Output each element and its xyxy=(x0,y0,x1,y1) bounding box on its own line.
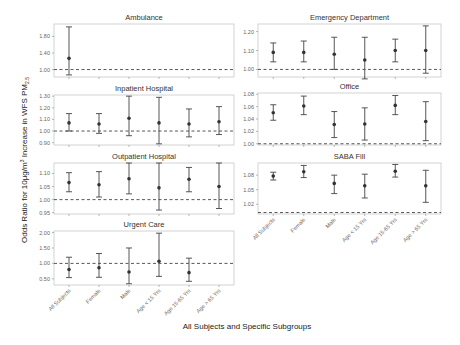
x-category-label: Female xyxy=(289,216,306,233)
point-estimate xyxy=(271,51,275,55)
point-estimate xyxy=(157,186,161,190)
y-tick-label: 1.02 xyxy=(243,201,254,207)
point-estimate xyxy=(187,122,191,126)
y-axis-title: Odds Ratio for 10μg/m3 Increase in WFS P… xyxy=(19,77,30,243)
point-estimate xyxy=(393,49,397,53)
y-tick-label: 1.00 xyxy=(243,141,254,147)
y-tick-label: 2.00 xyxy=(39,230,50,236)
y-tick-label: 1.08 xyxy=(243,91,254,97)
panel-saba-fill: SABA Fill1.021.051.08All SubjectsFemaleM… xyxy=(243,152,441,246)
y-tick-label: 1.05 xyxy=(39,184,50,190)
panel-frame xyxy=(258,163,441,214)
point-estimate xyxy=(424,120,428,124)
panel-urgent-care: Urgent Care0.501.001.502.00All SubjectsF… xyxy=(39,220,234,317)
x-category-label: Age > 65 Yrs xyxy=(402,216,429,243)
y-tick-label: 1.10 xyxy=(243,48,254,54)
panel-title: Outpatient Hospital xyxy=(112,152,176,161)
panel-frame xyxy=(54,231,234,285)
faceted-forest-plot: Ambulance1.001.401.80Emergency Departmen… xyxy=(0,0,460,345)
point-estimate xyxy=(332,123,336,127)
point-estimate xyxy=(363,184,367,188)
panel-outpatient-hospital: Outpatient Hospital0.951.001.051.10 xyxy=(39,152,234,216)
panel-inpatient-hospital: Inpatient Hospital0.901.001.101.201.30 xyxy=(39,84,234,147)
y-tick-label: 1.02 xyxy=(243,128,254,134)
point-estimate xyxy=(97,183,101,187)
x-category-label: All Subjects xyxy=(251,216,276,241)
point-estimate xyxy=(187,271,191,275)
point-estimate xyxy=(97,266,101,270)
x-axis-title: All Subjects and Specific Subgroups xyxy=(183,322,312,331)
x-category-label: Age 15-65 Yrs xyxy=(163,287,192,316)
y-tick-label: 1.20 xyxy=(39,105,50,111)
point-estimate xyxy=(67,121,71,125)
y-tick-label: 1.40 xyxy=(39,50,50,56)
panel-emergency-department: Emergency Department1.001.101.20 xyxy=(243,13,441,79)
panel-title: Inpatient Hospital xyxy=(115,84,173,93)
panel-title: Emergency Department xyxy=(310,13,390,22)
y-tick-label: 0.50 xyxy=(39,276,50,282)
panel-title: SABA Fill xyxy=(334,152,366,161)
x-category-label: Age < 15 Yrs xyxy=(341,216,368,243)
point-estimate xyxy=(127,116,131,120)
point-estimate xyxy=(424,49,428,53)
panel-title: Office xyxy=(340,82,359,91)
y-tick-label: 1.10 xyxy=(39,170,50,176)
point-estimate xyxy=(97,122,101,126)
x-category-label: Age > 65 Yrs xyxy=(195,287,222,314)
point-estimate xyxy=(302,104,306,108)
point-estimate xyxy=(127,270,131,274)
point-estimate xyxy=(67,57,71,61)
point-estimate xyxy=(271,111,275,115)
panels-group: Ambulance1.001.401.80Emergency Departmen… xyxy=(39,13,441,317)
y-tick-label: 1.00 xyxy=(39,67,50,73)
panel-frame xyxy=(258,93,441,145)
x-category-label: Female xyxy=(84,287,101,304)
panel-frame xyxy=(54,95,234,145)
y-tick-label: 1.08 xyxy=(243,172,254,178)
y-tick-label: 0.90 xyxy=(39,140,50,146)
point-estimate xyxy=(187,177,191,181)
y-tick-label: 1.50 xyxy=(39,245,50,251)
y-tick-label: 1.80 xyxy=(39,33,50,39)
chart-canvas: Ambulance1.001.401.80Emergency Departmen… xyxy=(0,0,460,345)
y-tick-label: 1.10 xyxy=(39,116,50,122)
x-category-label: Age < 15 Yrs xyxy=(135,287,162,314)
panel-office: Office1.001.021.041.061.08 xyxy=(243,82,441,147)
panel-ambulance: Ambulance1.001.401.80 xyxy=(39,13,234,79)
point-estimate xyxy=(393,169,397,173)
y-tick-label: 1.04 xyxy=(243,116,254,122)
y-tick-label: 1.30 xyxy=(39,93,50,99)
y-tick-label: 1.00 xyxy=(39,128,50,134)
point-estimate xyxy=(302,170,306,174)
x-category-label: Male xyxy=(119,287,132,300)
y-tick-label: 1.00 xyxy=(243,66,254,72)
point-estimate xyxy=(424,184,428,188)
point-estimate xyxy=(332,52,336,56)
y-tick-label: 1.05 xyxy=(243,187,254,193)
point-estimate xyxy=(157,121,161,125)
point-estimate xyxy=(393,104,397,108)
point-estimate xyxy=(217,185,221,189)
y-tick-label: 1.20 xyxy=(243,29,254,35)
panel-frame xyxy=(54,24,234,77)
x-category-label: Age 15-65 Yrs xyxy=(369,216,398,245)
point-estimate xyxy=(332,182,336,186)
x-category-label: All Subjects xyxy=(47,287,72,312)
y-tick-label: 1.06 xyxy=(243,104,254,110)
point-estimate xyxy=(217,120,221,124)
point-estimate xyxy=(271,174,275,178)
point-estimate xyxy=(363,58,367,62)
panel-title: Ambulance xyxy=(125,13,163,22)
point-estimate xyxy=(67,268,71,272)
point-estimate xyxy=(302,51,306,55)
y-tick-label: 1.00 xyxy=(39,197,50,203)
y-tick-label: 0.95 xyxy=(39,210,50,216)
point-estimate xyxy=(127,177,131,181)
point-estimate xyxy=(157,259,161,263)
point-estimate xyxy=(67,181,71,185)
y-tick-label: 1.00 xyxy=(39,260,50,266)
x-category-label: Male xyxy=(324,216,337,229)
panel-frame xyxy=(54,163,234,214)
point-estimate xyxy=(363,122,367,126)
panel-title: Urgent Care xyxy=(124,220,165,229)
